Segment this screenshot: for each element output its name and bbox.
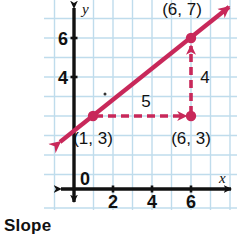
x-tick-label-2: 2	[108, 192, 118, 212]
point-6-3	[186, 111, 196, 121]
point-6-7	[186, 33, 196, 43]
point-1-3	[88, 111, 98, 121]
x-axis-label: x	[218, 170, 226, 186]
coordinate-plane: 2 4 6 4 6 0 y x (1, 3) (6, 3) (6, 7)	[0, 0, 237, 243]
y-tick-label-4: 4	[58, 68, 68, 88]
slope-figure: 2 4 6 4 6 0 y x (1, 3) (6, 3) (6, 7)	[0, 0, 237, 243]
y-axis-label: y	[80, 1, 89, 17]
point-label-6-3: (6, 3)	[171, 129, 211, 148]
point-label-1-3: (1, 3)	[73, 129, 113, 148]
figure-background	[0, 0, 237, 243]
run-length-label: 5	[141, 92, 150, 111]
point-label-6-7: (6, 7)	[162, 0, 202, 19]
rise-length-label: 4	[200, 68, 209, 87]
speck-mark	[104, 93, 107, 96]
origin-label: 0	[80, 169, 90, 189]
x-tick-label-6: 6	[186, 192, 196, 212]
x-tick-label-4: 4	[147, 192, 157, 212]
y-tick-label-6: 6	[58, 29, 68, 49]
figure-caption: Slope	[4, 216, 51, 236]
